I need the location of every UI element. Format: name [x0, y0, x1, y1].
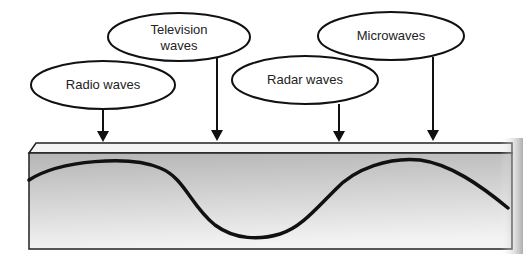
box-top-face — [29, 143, 512, 153]
television-waves-label: Television waves — [108, 22, 250, 54]
right-edge-shadow — [500, 138, 523, 254]
radio-waves-label: Radio waves — [31, 77, 175, 93]
radar-waves-label: Radar waves — [232, 72, 378, 88]
television-label-line1: Television — [108, 22, 250, 38]
television-label-line2: waves — [108, 38, 250, 54]
microwaves-label: Microwaves — [318, 28, 464, 44]
